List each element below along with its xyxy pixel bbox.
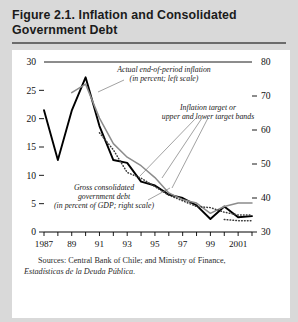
inflation-annotation-line-1: Actual end-of-period inflation bbox=[116, 65, 211, 74]
debt-annotation-line-2: government debt bbox=[78, 192, 131, 201]
x-axis-tick-label: 1987 bbox=[35, 239, 54, 249]
source-line-1: Sources: Central Bank of Chile; and Mini… bbox=[24, 256, 276, 267]
left-axis-tick-label: 15 bbox=[26, 141, 36, 152]
debt-annotation-line-1: Gross consolidated bbox=[74, 183, 134, 192]
x-axis-tick-label: 2001 bbox=[229, 239, 248, 249]
line-chart: 0510152025303040506070801987899193959799… bbox=[12, 50, 290, 258]
inflation-annotation-line-2: (in percent; left scale) bbox=[130, 74, 199, 83]
x-axis-tick-label: 97 bbox=[178, 239, 188, 249]
x-axis-tick-label: 95 bbox=[150, 239, 160, 249]
target-annotation-line-2: upper and lower target bands bbox=[162, 112, 254, 121]
left-axis-tick-label: 10 bbox=[26, 170, 36, 181]
debt-annotation-line-3: (in percent of GDP; right scale) bbox=[54, 201, 154, 210]
right-axis-tick-label: 80 bbox=[261, 56, 271, 67]
series-line-3 bbox=[224, 220, 252, 221]
source-line-2: Estadísticas de la Deuda Pública. bbox=[24, 267, 276, 278]
target-leader-line-1 bbox=[140, 118, 196, 176]
figure-container: Figure 2.1. Inflation and Consolidated G… bbox=[0, 0, 298, 322]
right-axis-tick-label: 50 bbox=[261, 158, 271, 169]
inflation-leader-line bbox=[98, 80, 124, 92]
x-axis-tick-label: 89 bbox=[67, 239, 77, 249]
chart-panel: 0510152025303040506070801987899193959799… bbox=[12, 50, 290, 318]
left-axis-tick-label: 5 bbox=[31, 198, 36, 209]
left-axis-tick-label: 30 bbox=[26, 56, 36, 67]
right-axis-tick-label: 60 bbox=[261, 124, 271, 135]
title-divider bbox=[12, 42, 286, 44]
right-axis-tick-label: 70 bbox=[261, 90, 271, 101]
x-axis-tick-label: 99 bbox=[206, 239, 216, 249]
target-leader-line-3 bbox=[172, 118, 208, 188]
right-axis-tick-label: 40 bbox=[261, 192, 271, 203]
left-axis-tick-label: 20 bbox=[26, 113, 36, 124]
right-axis-tick-label: 30 bbox=[261, 226, 271, 237]
left-axis-tick-label: 25 bbox=[26, 85, 36, 96]
series-line-0 bbox=[44, 77, 252, 219]
plot-area: 0510152025303040506070801987899193959799… bbox=[12, 50, 290, 258]
figure-title: Figure 2.1. Inflation and Consolidated G… bbox=[12, 8, 280, 38]
target-annotation-line-1: Inflation target or bbox=[179, 103, 237, 112]
left-axis-tick-label: 0 bbox=[31, 226, 36, 237]
x-axis-tick-label: 93 bbox=[123, 239, 133, 249]
source-note: Sources: Central Bank of Chile; and Mini… bbox=[24, 256, 276, 277]
x-axis-tick-label: 91 bbox=[95, 239, 105, 249]
